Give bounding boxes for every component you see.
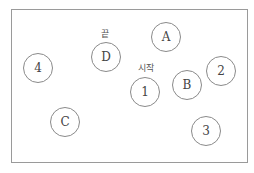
node-a: A — [151, 22, 181, 52]
node-label: 1 — [141, 85, 149, 99]
node-label: D — [101, 50, 111, 64]
node-1: 1 — [130, 77, 160, 107]
end-label: 끝 — [101, 27, 109, 40]
node-label: A — [162, 30, 171, 44]
node-label: B — [183, 78, 192, 92]
start-label: 시작 — [138, 61, 154, 74]
node-label: C — [60, 115, 69, 129]
node-label: 4 — [34, 61, 42, 75]
node-d: D — [91, 42, 121, 72]
node-label: 2 — [217, 64, 225, 78]
node-label: 3 — [202, 124, 210, 138]
node-c: C — [50, 107, 80, 137]
node-3: 3 — [191, 116, 221, 146]
node-4: 4 — [23, 53, 53, 83]
node-b: B — [172, 70, 202, 100]
node-2: 2 — [206, 56, 236, 86]
